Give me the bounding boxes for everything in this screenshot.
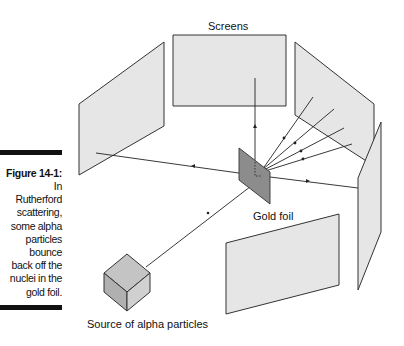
label-gold-foil: Gold foil — [253, 210, 293, 222]
screen-bottom — [226, 214, 339, 314]
alpha-source-cube — [104, 254, 150, 311]
rutherford-diagram: Screens Gold foil Source of alpha partic… — [0, 0, 404, 346]
label-screens: Screens — [208, 20, 249, 32]
label-source: Source of alpha particles — [87, 318, 209, 330]
screen-top — [173, 35, 286, 106]
screen-left — [79, 42, 164, 175]
gold-foil — [239, 148, 270, 204]
